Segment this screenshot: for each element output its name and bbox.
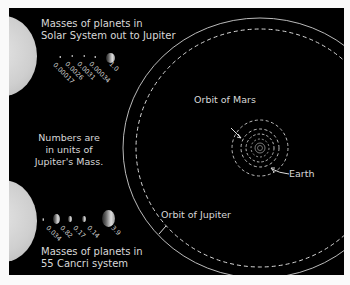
mars-orbit-label: Orbit of Mars	[194, 94, 256, 106]
planet-venus	[71, 55, 73, 57]
planet-cancri-c	[68, 216, 72, 222]
units-note: Numbers are in units of Jupiter's Mass.	[23, 132, 115, 168]
solar-system-title: Masses of planets in Solar System out to…	[41, 18, 176, 42]
planet-cancri-b	[53, 214, 60, 224]
mercury-orbit	[251, 139, 269, 157]
planet-cancri-f	[82, 216, 86, 222]
planet-cancri-e	[42, 218, 44, 221]
planet-mars	[94, 56, 96, 58]
earth-orbit	[241, 129, 279, 167]
inner-orbit-2	[258, 146, 263, 151]
cancri-title: Masses of planets in 55 Cancri system	[41, 246, 143, 270]
venus-orbit	[246, 134, 274, 162]
outer-orbit-solid	[123, 18, 344, 275]
inner-orbit	[255, 143, 265, 153]
earth-label: Earth	[289, 168, 314, 180]
planet-mercury	[59, 56, 61, 58]
jupiter-arrow	[159, 226, 166, 234]
jupiter-orbit	[136, 29, 344, 267]
planet-earth	[83, 55, 85, 57]
jupiter-orbit-label: Orbit of Jupiter	[161, 209, 231, 221]
diagram-frame: Masses of planets in Solar System out to…	[9, 8, 344, 275]
mars-orbit	[232, 120, 288, 176]
